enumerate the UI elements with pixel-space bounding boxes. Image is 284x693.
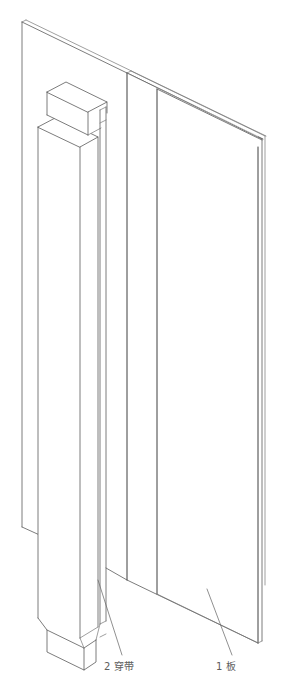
main-board-face bbox=[127, 73, 258, 643]
callout-label-board: 1 板 bbox=[216, 660, 236, 672]
batten-body-face bbox=[38, 127, 80, 638]
batten-foot-top-right-edge bbox=[84, 640, 96, 648]
callout-labels: 2 穿带 1 板 bbox=[104, 660, 236, 672]
batten-strip-bottom-notch bbox=[100, 634, 106, 637]
technical-drawing-canvas: 2 穿带 1 板 bbox=[0, 0, 284, 693]
main-board-topleft-thickness-cap bbox=[127, 71, 131, 73]
callout-label-batten: 2 穿带 bbox=[104, 660, 134, 672]
isometric-assembly-drawing: 2 穿带 1 板 bbox=[0, 0, 284, 693]
batten-leader-line bbox=[98, 580, 122, 655]
main-board-part bbox=[106, 71, 265, 643]
batten-strip-bottom-cap bbox=[100, 621, 106, 624]
batten-body-bottom-side-edge bbox=[80, 627, 98, 638]
rear-panel-topleft-thickness-cap bbox=[22, 20, 26, 22]
